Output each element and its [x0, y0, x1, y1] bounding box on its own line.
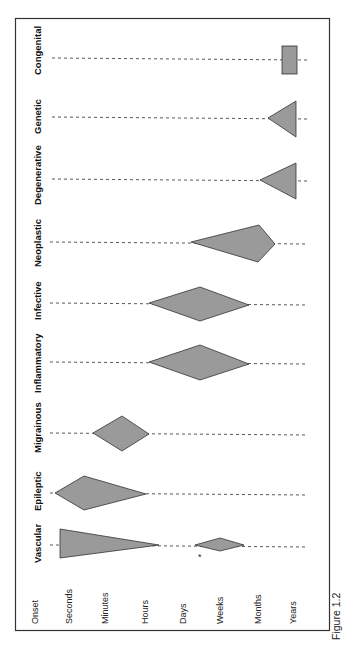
time-label-seconds: Seconds [64, 588, 74, 624]
category-label-genetic: Genetic [32, 99, 43, 134]
epileptic-shape [55, 476, 146, 510]
category-label-degenerative: Degenerative [32, 145, 43, 205]
onset-diagram: * Vascular Epileptic Migrainous Inflamma… [0, 0, 345, 650]
category-labels: Vascular Epileptic Migrainous Inflammato… [32, 26, 43, 563]
inflammatory-shape [149, 345, 249, 380]
onset-shapes [55, 46, 297, 558]
category-label-vascular: Vascular [32, 524, 43, 563]
time-label-weeks: Weeks [215, 596, 225, 624]
vascular-shape [60, 529, 159, 558]
time-label-months: Months [253, 594, 263, 624]
neoplastic-shape [191, 225, 275, 262]
guide-line-migrainous [50, 433, 308, 435]
asterisk-annotation: * [198, 552, 202, 562]
figure-caption: Figure 1.2 [330, 593, 342, 640]
category-label-inflammatory: Inflammatory [32, 333, 43, 393]
category-label-infective: Infective [32, 281, 43, 320]
axis-title-onset: Onset [30, 599, 40, 624]
category-label-neoplastic: Neoplastic [32, 219, 43, 267]
category-label-migrainous: Migrainous [32, 402, 43, 453]
degenerative-shape [260, 163, 296, 199]
infective-shape [149, 287, 249, 321]
time-axis-labels: Onset Seconds Minutes Hours Days Weeks M… [30, 588, 298, 624]
time-label-days: Days [178, 603, 188, 624]
category-label-epileptic: Epileptic [32, 471, 43, 511]
time-label-years: Years [288, 601, 298, 624]
vascular-secondary-shape [195, 538, 244, 551]
category-label-congenital: Congenital [32, 26, 43, 75]
migrainous-shape [93, 416, 149, 451]
guide-line-congenital [52, 58, 308, 60]
time-label-hours: Hours [140, 599, 150, 624]
congenital-shape [282, 46, 297, 74]
genetic-shape [268, 101, 296, 137]
time-label-minutes: Minutes [100, 592, 110, 624]
